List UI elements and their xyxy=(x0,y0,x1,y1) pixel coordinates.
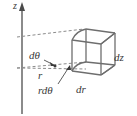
z-axis-arrowhead xyxy=(19,2,25,11)
label-r: r xyxy=(38,70,42,81)
wedge-face-diagonal-bottom xyxy=(101,65,115,75)
wedge-top-radial-back xyxy=(86,29,115,33)
label-dr: dr xyxy=(76,84,86,95)
cylindrical-volume-element-figure: z dθ r rdθ dr dz xyxy=(0,0,137,116)
dashed-ray-lower-b xyxy=(17,68,86,69)
label-dtheta: dθ xyxy=(29,50,40,61)
wedge-bottom-radial-front xyxy=(72,71,101,75)
wedge-face-diagonal-top xyxy=(101,33,115,44)
volume-element-wedge xyxy=(72,29,115,75)
label-dz: dz xyxy=(114,52,124,63)
label-rdtheta: rdθ xyxy=(38,85,53,96)
leader-arrow-rdtheta xyxy=(66,65,71,70)
axis-label-z: z xyxy=(13,1,17,11)
